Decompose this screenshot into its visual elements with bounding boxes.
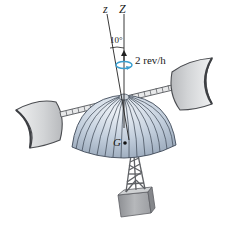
- body-axis-label: z: [103, 3, 108, 15]
- vertical-axis-label: Z: [119, 3, 126, 15]
- angle-label: 10°: [110, 36, 123, 45]
- rotation-rate-label: 2 rev/h: [135, 55, 166, 66]
- angle-arc: [110, 47, 124, 48]
- center-of-mass-point: [123, 141, 127, 145]
- base-block: [118, 187, 155, 217]
- tower: [126, 155, 145, 192]
- wind-cup-left: [16, 101, 62, 148]
- wind-cup-right: [171, 58, 212, 110]
- center-of-mass-label: G: [113, 137, 121, 148]
- rotating-dome-diagram: z Z 10° 2 rev/h G: [0, 0, 228, 230]
